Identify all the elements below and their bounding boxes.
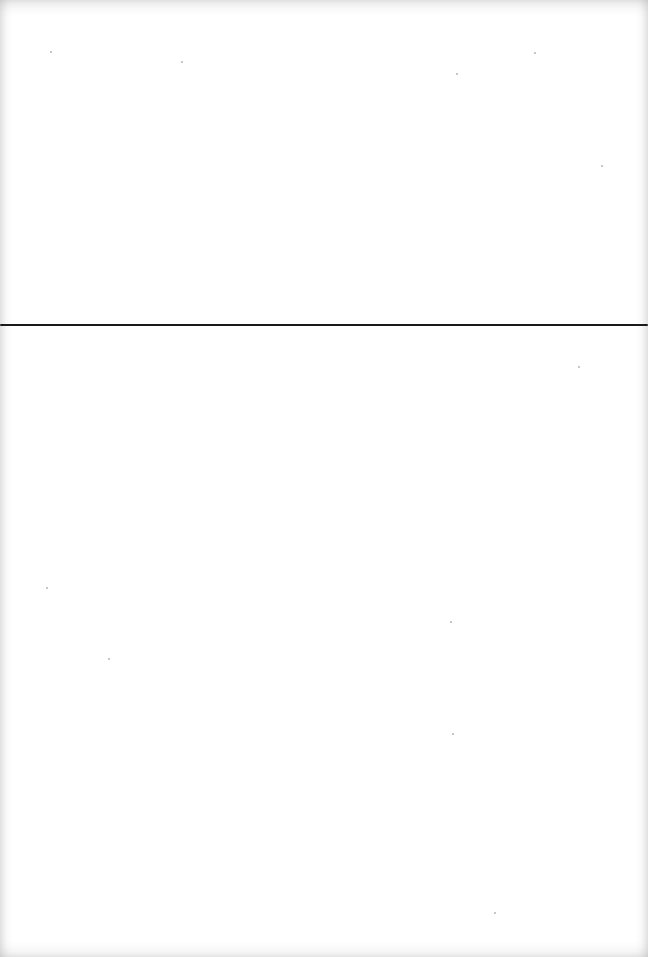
- scan-speck: [578, 366, 580, 368]
- scan-speck: [601, 165, 603, 167]
- scan-speck: [494, 912, 496, 914]
- scan-speck: [50, 51, 52, 53]
- scan-speck: [450, 621, 452, 623]
- document-page: [0, 0, 648, 957]
- scan-speck: [456, 73, 458, 75]
- horizontal-rule: [0, 324, 648, 326]
- scan-speck: [181, 61, 183, 63]
- scan-speck: [108, 658, 110, 660]
- scan-speck: [534, 52, 536, 54]
- scan-speck: [452, 733, 454, 735]
- scan-speck: [46, 587, 48, 589]
